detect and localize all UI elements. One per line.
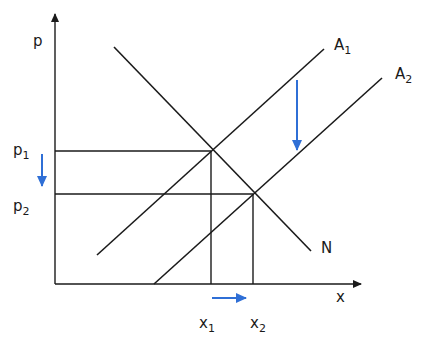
price-2-label: p2 — [13, 197, 30, 218]
equilibrium-2-guides — [55, 194, 253, 284]
quantity-2-label: x2 — [250, 314, 266, 335]
supply-demand-diagram: p x N A1 A2 p1 p2 x1 x2 — [0, 0, 425, 339]
y-axis-label: p — [33, 32, 43, 50]
supply-curve-2 — [154, 78, 382, 284]
equilibrium-1-guides — [55, 151, 211, 284]
demand-curve-label: N — [321, 239, 332, 257]
supply-curve-1-label: A1 — [334, 36, 351, 57]
supply-curve-2-label: A2 — [395, 65, 412, 86]
x-axis-label: x — [336, 288, 345, 306]
quantity-1-label: x1 — [199, 314, 215, 335]
price-1-label: p1 — [13, 141, 30, 162]
demand-curve — [114, 47, 311, 251]
